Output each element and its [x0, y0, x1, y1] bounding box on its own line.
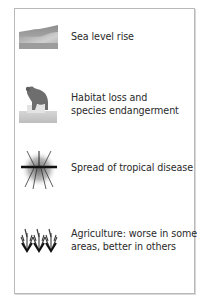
impact-item-agriculture: Agriculture: worse in some areas, better…	[15, 221, 194, 257]
mosquito-icon	[19, 147, 59, 191]
impact-label-line: Agriculture: worse in some	[71, 227, 191, 240]
impact-label-line: Sea level rise	[71, 30, 191, 43]
crops-icon	[19, 223, 59, 253]
impact-label-line: species endangerment	[71, 104, 191, 117]
impact-label: Habitat loss and species endangerment	[71, 91, 191, 117]
sea-level-icon	[19, 23, 58, 49]
impact-item-habitat: Habitat loss and species endangerment	[15, 83, 194, 125]
impact-item-sea-level: Sea level rise	[15, 23, 194, 53]
impact-label-line: Habitat loss and	[71, 91, 191, 104]
impact-item-tropical-disease: Spread of tropical disease	[15, 147, 194, 191]
animal-habitat-icon	[17, 83, 59, 125]
impact-label: Spread of tropical disease	[71, 161, 191, 174]
impact-label: Sea level rise	[71, 30, 191, 43]
impact-label: Agriculture: worse in some areas, better…	[71, 227, 191, 253]
impact-label-line: Spread of tropical disease	[71, 161, 191, 174]
impact-label-line: areas, better in others	[71, 240, 191, 253]
climate-impacts-panel: Sea level rise Habitat loss and s	[14, 8, 195, 294]
